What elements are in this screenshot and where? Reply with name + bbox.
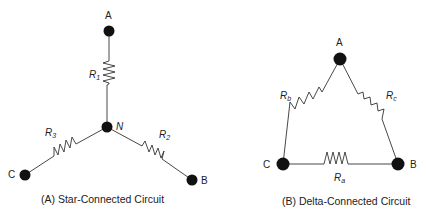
star-label-a: A [105, 10, 112, 21]
star-label-r1: R1 [89, 69, 100, 81]
star-caption: (A) Star-Connected Circuit [41, 193, 164, 205]
star-label-r2: R2 [159, 129, 170, 141]
delta-label-ra: Ra [334, 172, 345, 184]
resistor-r2 [107, 127, 192, 180]
resistor-r3 [25, 127, 107, 175]
resistor-r1 [103, 31, 115, 127]
star-node-b [187, 175, 198, 186]
resistor-ra [283, 152, 398, 164]
star-label-r3: R3 [45, 127, 56, 139]
delta-circuit: A C B Rb Rc Ra (B) Delta-Connected Circu… [263, 37, 417, 207]
resistor-rb [283, 59, 340, 164]
delta-label-a: A [336, 37, 343, 48]
star-circuit: A N C B R1 R2 R3 (A) Star-Connected Circ… [8, 10, 208, 205]
star-label-c: C [8, 169, 15, 180]
star-label-n: N [116, 121, 124, 132]
delta-caption: (B) Delta-Connected Circuit [282, 195, 410, 207]
delta-label-c: C [263, 159, 270, 170]
delta-label-rc: Rc [386, 90, 397, 102]
resistor-rc [340, 59, 398, 164]
delta-node-b [392, 158, 405, 171]
star-node-a [104, 26, 115, 37]
delta-label-b: B [410, 159, 417, 170]
circuit-diagrams: A N C B R1 R2 R3 (A) Star-Connected Circ… [0, 0, 426, 217]
star-node-n [102, 122, 113, 133]
delta-node-c [277, 158, 290, 171]
star-label-b: B [201, 175, 208, 186]
delta-node-a [334, 53, 347, 66]
delta-label-rb: Rb [280, 90, 291, 102]
star-node-c [20, 170, 31, 181]
